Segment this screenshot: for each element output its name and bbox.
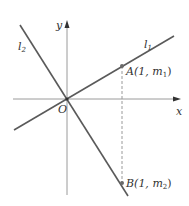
point-a — [120, 64, 124, 68]
point-b-label: B(1, m2) — [125, 177, 172, 191]
line-l2 — [20, 25, 128, 196]
origin-point — [65, 97, 68, 100]
line-l2-label: l2 — [18, 40, 27, 54]
x-axis-label: x — [176, 105, 183, 118]
y-axis-arrow-icon — [65, 20, 70, 28]
line-l1-label: l1 — [144, 38, 152, 52]
x-axis-arrow-icon — [173, 97, 181, 102]
point-a-label: A(1, m1) — [125, 65, 171, 79]
x-axis — [13, 97, 181, 102]
perpendicular-lines-diagram: y x O l1 l2 A(1, m1) B(1, m2) — [0, 0, 189, 206]
point-b — [120, 181, 124, 185]
y-axis-label: y — [55, 19, 63, 32]
origin-label: O — [58, 103, 67, 116]
